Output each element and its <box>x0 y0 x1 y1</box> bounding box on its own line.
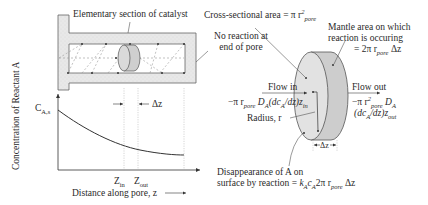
flow-out-label: Flow out <box>352 82 386 93</box>
no-reaction-line1: No reaction at <box>201 31 281 42</box>
radius-label: Radius, r <box>247 113 281 124</box>
catalyst-pore <box>58 15 208 90</box>
delta-z-detail-label: Δz <box>320 140 329 151</box>
delta-z-plot-label: Δz <box>152 99 162 110</box>
no-reaction-line2: end of pore <box>201 42 281 53</box>
flow-in-expression: −π rpore DA(dcA/dz)zin <box>228 97 308 108</box>
flow-out-expression: −π r2pore DA (dcA/dz)zout <box>352 97 396 119</box>
z-in-label: Zin <box>114 176 125 187</box>
flow-in-label: Flow in <box>268 82 297 93</box>
no-reaction-label: No reaction at end of pore <box>201 31 281 53</box>
y-axis-label: Concentration of Reactant A <box>11 62 21 170</box>
cas-label: CA,s <box>35 103 50 114</box>
disappearance-label: Disappearance of A on surface by reactio… <box>217 167 355 189</box>
x-axis-label: Distance along pore, z <box>72 188 157 199</box>
z-out-label: Zout <box>134 176 148 187</box>
concentration-plot <box>58 88 200 193</box>
cross-section-label: Cross-sectional area = π r2pore <box>204 10 316 21</box>
mantle-area-label: Mantle area on which reaction is occurin… <box>328 22 411 55</box>
elementary-section-label: Elementary section of catalyst <box>73 9 188 20</box>
